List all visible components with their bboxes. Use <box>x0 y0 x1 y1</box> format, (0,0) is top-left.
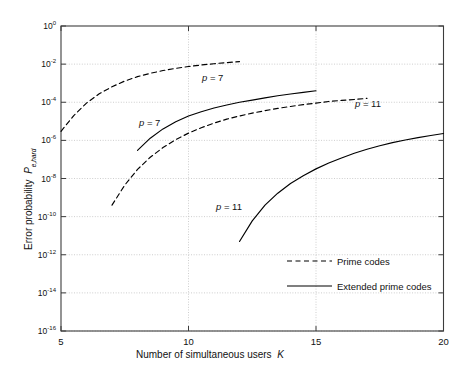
series-curve-2 <box>112 98 367 205</box>
gridlines <box>61 26 444 331</box>
series-curve-3 <box>240 133 444 241</box>
figure-chart-error-probability: 10010-210-410-610-810-1010-1210-1410-16 … <box>0 0 464 368</box>
series-curve-0 <box>61 62 240 132</box>
series-curve-1 <box>138 91 317 151</box>
plot-canvas <box>0 0 464 368</box>
